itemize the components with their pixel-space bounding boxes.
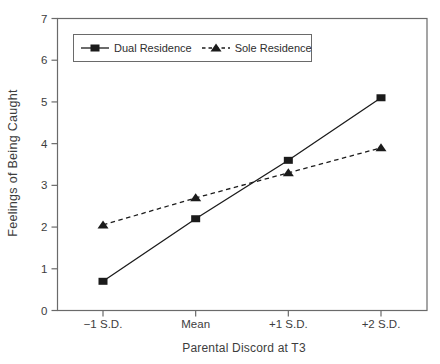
y-tick-label: 4 (41, 138, 48, 150)
series-line-dual-residence (103, 98, 381, 282)
square-marker-dual-residence (377, 94, 386, 101)
x-tick-label: +1 S.D. (269, 318, 308, 330)
x-tick-label: Mean (181, 318, 210, 330)
x-tick-label: +2 S.D. (362, 318, 401, 330)
x-axis-title: Parental Discord at T3 (182, 341, 306, 355)
y-tick-label: 1 (41, 263, 47, 275)
square-marker-dual-residence (99, 278, 108, 285)
y-tick-label: 6 (41, 54, 47, 66)
triangle-marker-sole-residence (376, 143, 387, 151)
legend-item-dual-residence: Dual Residence (81, 42, 192, 54)
legend-label-sole-residence: Sole Residence (235, 42, 312, 54)
y-tick-label: 5 (41, 96, 47, 108)
y-tick-label: 3 (41, 179, 47, 191)
solid-line-square-marker-icon (81, 42, 109, 54)
legend-item-sole-residence: Sole Residence (202, 42, 312, 54)
square-marker-dual-residence (191, 215, 200, 222)
x-tick-label: −1 S.D. (84, 318, 123, 330)
legend-label-dual-residence: Dual Residence (114, 42, 192, 54)
y-tick-label: 0 (41, 305, 47, 317)
y-tick-label: 2 (41, 221, 47, 233)
y-tick-label: 7 (41, 13, 47, 25)
plot-frame (58, 19, 428, 311)
y-axis-title: Feelings of Being Caught (6, 89, 20, 237)
legend: Dual Residence Sole Residence (73, 34, 312, 62)
line-chart-figure: 01234567−1 S.D.Mean+1 S.D.+2 S.D. Feelin… (0, 0, 440, 364)
dashed-line-triangle-marker-icon (202, 42, 230, 54)
square-marker-dual-residence (284, 157, 293, 164)
series-line-sole-residence (103, 148, 381, 225)
